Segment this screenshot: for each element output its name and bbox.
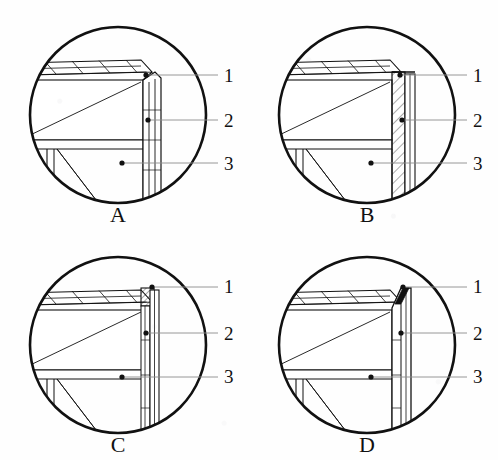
callout-number-1: 1	[224, 276, 234, 297]
callout-number-2: 2	[224, 323, 234, 344]
callout-number-3: 3	[473, 366, 483, 387]
callout-number-2: 2	[473, 323, 483, 344]
panel-letter-c: C	[111, 432, 126, 457]
panel-a: 1 2 3 A	[10, 27, 234, 227]
callout-number-1: 1	[224, 65, 234, 86]
panel-b-detail	[259, 60, 415, 205]
panel-letter-a: A	[110, 202, 126, 227]
panel-c: 1 2 3 C	[10, 257, 234, 457]
callout-number-1: 1	[473, 276, 483, 297]
panel-d: 1 2 3 D	[259, 257, 483, 457]
detail-drawing-svg: 1 2 3 A	[0, 0, 498, 460]
callout-number-3: 3	[224, 366, 234, 387]
callout-number-2: 2	[473, 110, 483, 131]
panel-b: 1 2 3 B	[259, 27, 483, 227]
callout-number-1: 1	[473, 65, 483, 86]
figure-root: 1 2 3 A	[0, 0, 498, 460]
callout-number-2: 2	[224, 110, 234, 131]
panel-letter-d: D	[359, 432, 375, 457]
panel-letter-b: B	[360, 202, 375, 227]
callout-number-3: 3	[473, 153, 483, 174]
callout-number-3: 3	[224, 153, 234, 174]
